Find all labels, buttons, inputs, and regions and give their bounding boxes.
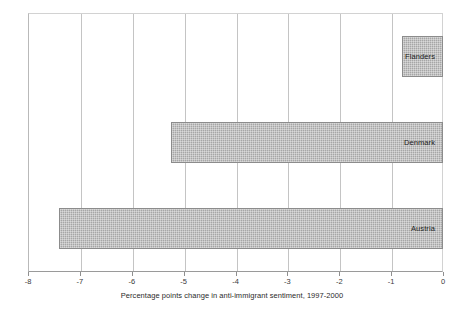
tick-mark	[287, 272, 288, 276]
tick-label: -6	[128, 277, 135, 286]
tick-label: -5	[180, 277, 187, 286]
bar-label: Denmark	[404, 138, 442, 147]
bar-flanders[interactable]: Flanders	[402, 36, 444, 77]
bar-chart: FlandersDenmarkAustria -8-7-6-5-4-3-2-10…	[0, 0, 464, 314]
tick-mark	[132, 272, 133, 276]
tick-label: -8	[25, 277, 32, 286]
tick-mark	[80, 272, 81, 276]
tick-label: -7	[77, 277, 84, 286]
bar-label: Flanders	[405, 52, 442, 61]
tick-label: -2	[336, 277, 343, 286]
tick-label: 0	[441, 277, 445, 286]
tick-mark	[28, 272, 29, 276]
bar-austria[interactable]: Austria	[59, 208, 443, 249]
tick-mark	[391, 272, 392, 276]
tick-mark	[443, 272, 444, 276]
tick-mark	[339, 272, 340, 276]
bar-label: Austria	[411, 224, 442, 233]
bar-denmark[interactable]: Denmark	[171, 122, 443, 163]
tick-label: -4	[232, 277, 239, 286]
x-axis-title: Percentage points change in anti-immigra…	[0, 291, 464, 300]
tick-label: -3	[284, 277, 291, 286]
tick-label: -1	[388, 277, 395, 286]
tick-mark	[184, 272, 185, 276]
tick-mark	[236, 272, 237, 276]
